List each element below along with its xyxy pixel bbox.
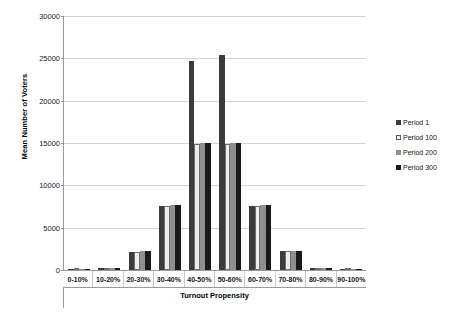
legend-swatch-icon: [396, 135, 401, 140]
legend-label: Period 200: [403, 149, 437, 156]
y-axis-tick-label: 25000: [39, 54, 60, 63]
legend-swatch-icon: [396, 165, 401, 170]
legend-item: Period 100: [396, 130, 462, 145]
x-axis-tick-label: 50-60%: [215, 271, 245, 287]
bar: [266, 205, 272, 270]
bar: [296, 251, 302, 270]
x-axis-tick-label: 20-30%: [124, 271, 154, 287]
bar: [175, 205, 181, 270]
legend-item: Period 300: [396, 160, 462, 175]
x-axis-tick-label: 70-80%: [276, 271, 306, 287]
bar-chart-figure: Mean Number of Voters 050001000015000200…: [0, 0, 462, 324]
legend-label: Period 300: [403, 164, 437, 171]
bar: [145, 251, 151, 270]
bar: [205, 143, 211, 270]
x-axis-tick-label: 0-10%: [63, 271, 93, 287]
bar-group: [245, 16, 275, 270]
bar-groups: [64, 16, 366, 270]
x-axis-tick-labels: 0-10%10-20%20-30%30-40%40-50%50-60%60-70…: [63, 270, 366, 288]
x-axis-title: Turnout Propensity: [63, 291, 366, 300]
bar-group: [94, 16, 124, 270]
y-axis-tick-label: 30000: [39, 12, 60, 21]
bar-group: [155, 16, 185, 270]
x-axis-tick-label: 60-70%: [245, 271, 275, 287]
chart-legend: Period 1Period 100Period 200Period 300: [396, 115, 462, 175]
bar: [236, 143, 242, 270]
x-axis-tick-label: 40-50%: [185, 271, 215, 287]
legend-item: Period 200: [396, 145, 462, 160]
legend-item: Period 1: [396, 115, 462, 130]
bar-group: [124, 16, 154, 270]
bar-group: [275, 16, 305, 270]
legend-swatch-icon: [396, 150, 401, 155]
y-axis-tick-label: 0: [56, 266, 60, 275]
x-axis-tick-label: 30-40%: [154, 271, 184, 287]
x-axis-tick-label: 90-100%: [337, 271, 366, 287]
y-axis-tick-label: 20000: [39, 96, 60, 105]
plot-area: 050001000015000200002500030000: [63, 16, 366, 270]
bar-group: [64, 16, 94, 270]
bar-group: [336, 16, 366, 270]
y-axis-tick-label: 15000: [39, 139, 60, 148]
bar-group: [306, 16, 336, 270]
legend-swatch-icon: [396, 120, 401, 125]
bar-group: [185, 16, 215, 270]
y-axis-tick-label: 5000: [43, 223, 60, 232]
y-axis-title: Mean Number of Voters: [20, 47, 29, 187]
x-axis-tick-label: 80-90%: [306, 271, 336, 287]
legend-label: Period 100: [403, 134, 437, 141]
bar-group: [215, 16, 245, 270]
y-axis-tick-label: 10000: [39, 181, 60, 190]
legend-label: Period 1: [403, 119, 429, 126]
x-axis-tick-label: 10-20%: [93, 271, 123, 287]
